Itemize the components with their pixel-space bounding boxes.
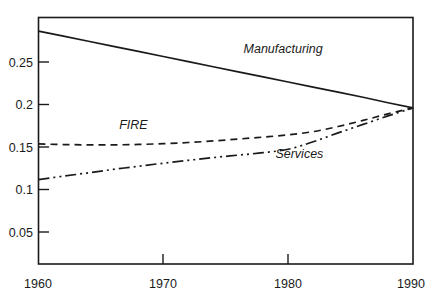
y-tick-label-0.2: 0.2 [16,98,33,112]
series-label-services: Services [275,147,323,161]
x-tick-label-1990: 1990 [397,277,425,291]
x-tick-label-1970: 1970 [149,277,177,291]
chart-canvas: 0.05 0.1 0.15 0.2 0.25 1960 1970 1980 19… [0,0,432,305]
x-tick-label-1960: 1960 [24,277,52,291]
y-tick-label-0.05: 0.05 [9,226,33,240]
y-tick-label-0.1: 0.1 [16,183,33,197]
y-tick-label-0.25: 0.25 [9,56,33,70]
line-chart: 0.05 0.1 0.15 0.2 0.25 1960 1970 1980 19… [0,0,432,305]
chart-background [0,0,432,305]
series-label-manufacturing: Manufacturing [244,42,323,56]
y-tick-label-0.15: 0.15 [9,141,33,155]
x-tick-label-1980: 1980 [274,277,302,291]
series-label-fire: FIRE [119,118,148,132]
